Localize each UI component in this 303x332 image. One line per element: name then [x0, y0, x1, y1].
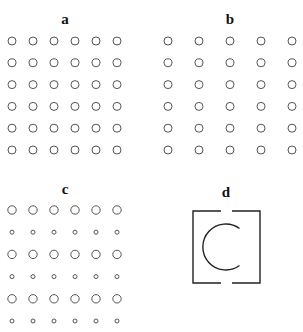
figure: a b c d — [0, 0, 303, 332]
square-left-bracket — [193, 211, 221, 283]
grid-dot — [92, 124, 100, 132]
grid-dot — [288, 102, 296, 110]
grid-dot — [31, 319, 35, 323]
grid-dot — [73, 230, 77, 234]
grid-dot — [92, 102, 100, 110]
grid-dot — [113, 59, 121, 67]
grid-dot — [50, 250, 58, 258]
grid-dot — [29, 102, 37, 110]
grid-dot — [71, 37, 79, 45]
grid-dot — [164, 81, 172, 89]
grid-dot — [94, 319, 98, 323]
grid-dot — [50, 295, 58, 303]
grid-dot — [195, 59, 203, 67]
grid-dot — [195, 37, 203, 45]
grid-dot — [50, 102, 58, 110]
grid-dot — [288, 81, 296, 89]
grid-dot — [71, 146, 79, 154]
grid-dot — [113, 124, 121, 132]
square-right-bracket — [232, 211, 260, 283]
grid-dot — [257, 102, 265, 110]
grid-dot — [71, 102, 79, 110]
grid-dot — [52, 319, 56, 323]
grid-dot — [50, 146, 58, 154]
grid-dot — [29, 59, 37, 67]
grid-dot — [113, 146, 121, 154]
grid-dot — [92, 146, 100, 154]
grid-dot — [92, 295, 100, 303]
grid-dot — [92, 206, 100, 214]
grid-dot — [71, 206, 79, 214]
grid-dot — [113, 295, 121, 303]
grid-dot — [50, 81, 58, 89]
grid-dot — [288, 37, 296, 45]
grid-dot — [8, 206, 16, 214]
grid-dot — [71, 59, 79, 67]
grid-dot — [10, 319, 14, 323]
grid-dot — [257, 81, 265, 89]
grid-dot — [226, 37, 234, 45]
grid-dot — [92, 37, 100, 45]
grid-dot — [10, 230, 14, 234]
grid-dot — [8, 250, 16, 258]
grid-dot — [195, 81, 203, 89]
grid-dot — [29, 250, 37, 258]
grid-dot — [71, 250, 79, 258]
grid-dot — [113, 81, 121, 89]
panel-c-dot-grid — [8, 206, 121, 323]
grid-dot — [29, 206, 37, 214]
grid-dot — [8, 124, 16, 132]
grid-dot — [115, 275, 119, 279]
grid-dot — [257, 146, 265, 154]
grid-dot — [92, 59, 100, 67]
panel-a-dot-grid — [8, 37, 121, 154]
grid-dot — [164, 102, 172, 110]
grid-dot — [10, 275, 14, 279]
grid-dot — [195, 102, 203, 110]
grid-dot — [92, 250, 100, 258]
grid-dot — [164, 59, 172, 67]
grid-dot — [52, 230, 56, 234]
grid-dot — [257, 124, 265, 132]
grid-dot — [31, 275, 35, 279]
grid-dot — [29, 37, 37, 45]
grid-dot — [29, 124, 37, 132]
grid-dot — [29, 146, 37, 154]
grid-dot — [115, 319, 119, 323]
grid-dot — [8, 295, 16, 303]
grid-dot — [195, 124, 203, 132]
grid-dot — [29, 81, 37, 89]
grid-dot — [8, 146, 16, 154]
open-circle-arc — [203, 224, 240, 270]
panel-b-dot-grid — [164, 37, 296, 154]
panel-d-label: d — [222, 184, 231, 200]
grid-dot — [31, 230, 35, 234]
grid-dot — [50, 124, 58, 132]
grid-dot — [226, 59, 234, 67]
grid-dot — [113, 102, 121, 110]
grid-dot — [288, 124, 296, 132]
grid-dot — [73, 275, 77, 279]
grid-dot — [164, 37, 172, 45]
grid-dot — [52, 275, 56, 279]
grid-dot — [115, 230, 119, 234]
grid-dot — [195, 146, 203, 154]
panel-b-label: b — [226, 11, 234, 27]
grid-dot — [226, 146, 234, 154]
grid-dot — [226, 124, 234, 132]
grid-dot — [164, 124, 172, 132]
grid-dot — [50, 206, 58, 214]
grid-dot — [50, 37, 58, 45]
grid-dot — [8, 81, 16, 89]
grid-dot — [73, 319, 77, 323]
panel-d-square-with-circle — [193, 211, 260, 283]
grid-dot — [288, 146, 296, 154]
grid-dot — [226, 81, 234, 89]
grid-dot — [113, 250, 121, 258]
grid-dot — [113, 37, 121, 45]
grid-dot — [8, 102, 16, 110]
grid-dot — [71, 81, 79, 89]
grid-dot — [8, 37, 16, 45]
grid-dot — [257, 37, 265, 45]
grid-dot — [113, 206, 121, 214]
